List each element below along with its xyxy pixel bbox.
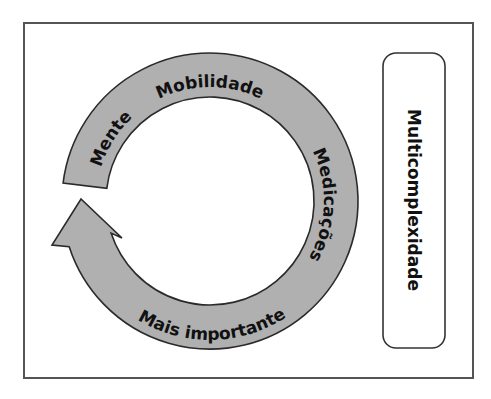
multicomplexidade-label: Multicomplexidade <box>404 109 424 291</box>
diagram-canvas: Mente Mobilidade Medicações Mais importa… <box>0 0 491 399</box>
